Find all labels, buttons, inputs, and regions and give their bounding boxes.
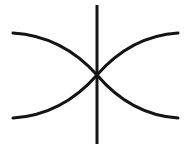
figure-canvas: Hyperbola with vertical axis <box>0 0 191 148</box>
geometry-figure <box>0 0 191 148</box>
